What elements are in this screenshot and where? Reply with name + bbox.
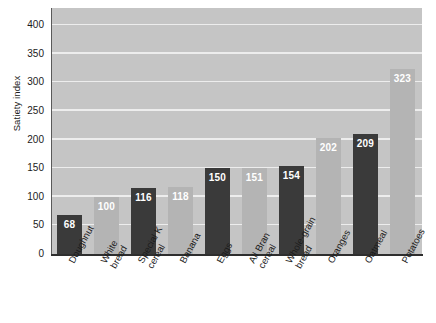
y-tick-label: 100	[27, 192, 44, 202]
y-tick-label: 350	[27, 49, 44, 59]
y-tick-label: 50	[33, 220, 44, 230]
satiety-index-bar-chart: Satiety index 050100150200250300350400 6…	[0, 0, 436, 323]
bar-value-label: 116	[131, 192, 156, 203]
y-tick-label: 200	[27, 135, 44, 145]
bar-value-label: 68	[57, 219, 82, 230]
x-axis-category-labels: DoughnutWhitebreadSpecial KcerealBananaE…	[0, 258, 436, 323]
plot-area: 68100116118150151154202209323	[52, 8, 422, 254]
bar-value-label: 202	[316, 142, 341, 153]
bar-value-label: 209	[353, 138, 378, 149]
bar-value-label: 323	[390, 73, 415, 84]
bar-value-label: 118	[168, 191, 193, 202]
bars-layer: 68100116118150151154202209323	[52, 8, 422, 254]
bar[interactable]: 323	[390, 69, 415, 254]
y-tick-label: 250	[27, 106, 44, 116]
y-tick-label: 150	[27, 163, 44, 173]
bar-value-label: 100	[94, 201, 119, 212]
bar-value-label: 151	[242, 172, 267, 183]
bar-value-label: 150	[205, 172, 230, 183]
bar-value-label: 154	[279, 170, 304, 181]
y-tick-label: 400	[27, 20, 44, 30]
y-tick-label: 300	[27, 77, 44, 87]
